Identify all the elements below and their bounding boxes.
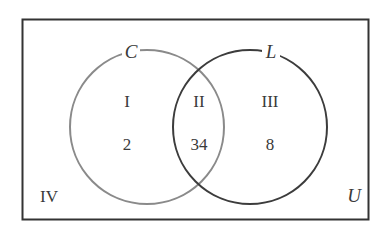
universe-label: U <box>347 185 362 206</box>
set-l-label: L <box>265 41 277 62</box>
set-l-circle <box>173 50 327 204</box>
region-iv-label: IV <box>40 187 59 206</box>
universe-rectangle <box>23 20 369 220</box>
set-c-circle <box>70 50 224 204</box>
region-i-value: 2 <box>123 135 132 154</box>
region-ii-value: 34 <box>191 135 209 154</box>
region-ii-label: II <box>193 92 205 111</box>
region-iii-value: 8 <box>266 135 275 154</box>
region-iii-label: III <box>262 92 279 111</box>
set-c-label: C <box>125 41 138 62</box>
venn-diagram: C L I II III IV 2 34 8 U <box>0 0 386 232</box>
region-i-label: I <box>124 92 130 111</box>
